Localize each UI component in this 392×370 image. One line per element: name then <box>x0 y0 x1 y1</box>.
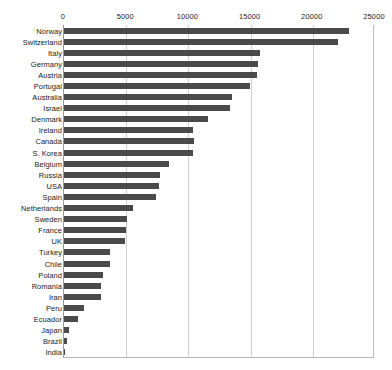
bar-row: Ireland <box>0 125 392 136</box>
bar-row: Spain <box>0 191 392 202</box>
category-label: Canada <box>35 137 62 146</box>
bar <box>64 83 250 89</box>
bar <box>64 116 208 122</box>
bar <box>64 349 65 355</box>
bar <box>64 338 67 344</box>
bar-row: India <box>0 347 392 358</box>
x-tick-label-25000: 25000 <box>363 12 384 21</box>
category-label: France <box>38 226 62 235</box>
bar <box>64 294 101 300</box>
bar <box>64 61 258 67</box>
category-label: Ecuador <box>34 314 62 323</box>
bar <box>64 172 160 178</box>
bar-row: Norway <box>0 25 392 36</box>
category-label: Germany <box>31 59 62 68</box>
bar <box>64 249 110 255</box>
bar-row: Peru <box>0 302 392 313</box>
bar <box>64 138 194 144</box>
bar <box>64 161 169 167</box>
bar <box>64 150 193 156</box>
bar <box>64 227 126 233</box>
category-label: USA <box>46 181 62 190</box>
bar <box>64 205 133 211</box>
category-label: Norway <box>36 26 62 35</box>
category-label: Turkey <box>39 248 62 257</box>
category-label: UK <box>51 237 62 246</box>
bar-row: Austria <box>0 69 392 80</box>
bar <box>64 105 230 111</box>
category-label: Russia <box>39 170 62 179</box>
bar-row: Russia <box>0 169 392 180</box>
category-label: India <box>45 348 62 357</box>
bar-row: Chile <box>0 258 392 269</box>
bar-row: Sweden <box>0 214 392 225</box>
bar-row: Australia <box>0 92 392 103</box>
bar-row: UK <box>0 236 392 247</box>
category-label: S. Korea <box>32 148 62 157</box>
category-label: Austria <box>38 70 62 79</box>
horizontal-bar-chart: 0500010000150002000025000 NorwaySwitzerl… <box>0 0 392 370</box>
bar-row: Netherlands <box>0 203 392 214</box>
category-label: Ireland <box>39 126 62 135</box>
bar <box>64 39 338 45</box>
category-label: Australia <box>32 93 62 102</box>
bar-rows: NorwaySwitzerlandItalyGermanyAustriaPort… <box>0 25 392 358</box>
bar-row: Brazil <box>0 336 392 347</box>
bar <box>64 194 156 200</box>
category-label: Portugal <box>34 82 62 91</box>
bar-row: Canada <box>0 136 392 147</box>
bar-row: Romania <box>0 280 392 291</box>
category-label: Denmark <box>31 115 62 124</box>
category-label: Chile <box>45 259 62 268</box>
bar <box>64 261 110 267</box>
bar <box>64 72 257 78</box>
bar-row: Iran <box>0 291 392 302</box>
bar-row: Belgium <box>0 158 392 169</box>
category-label: Iran <box>49 292 62 301</box>
bar <box>64 183 159 189</box>
category-label: Sweden <box>35 215 62 224</box>
category-label: Japan <box>41 326 62 335</box>
bar <box>64 305 84 311</box>
bar-row: Italy <box>0 47 392 58</box>
bar <box>64 216 127 222</box>
bar-row: Portugal <box>0 80 392 91</box>
category-label: Israel <box>43 104 62 113</box>
category-label: Spain <box>43 192 62 201</box>
bar-row: Turkey <box>0 247 392 258</box>
bar-row: Poland <box>0 269 392 280</box>
bar <box>64 28 349 34</box>
bar-row: France <box>0 225 392 236</box>
bar <box>64 127 193 133</box>
category-label: Netherlands <box>21 204 62 213</box>
x-tick-label-5000: 5000 <box>117 12 134 21</box>
category-label: Brazil <box>43 337 62 346</box>
category-label: Poland <box>38 270 62 279</box>
bar-row: USA <box>0 180 392 191</box>
x-tick-label-0: 0 <box>61 12 65 21</box>
bar <box>64 283 101 289</box>
bar <box>64 238 125 244</box>
x-tick-label-20000: 20000 <box>301 12 322 21</box>
bar-row: Denmark <box>0 114 392 125</box>
category-label: Peru <box>46 303 62 312</box>
category-label: Switzerland <box>23 37 62 46</box>
bar-row: Ecuador <box>0 313 392 324</box>
bar-row: Israel <box>0 103 392 114</box>
category-label: Italy <box>48 48 62 57</box>
bar <box>64 272 103 278</box>
bar <box>64 327 69 333</box>
x-tick-label-15000: 15000 <box>239 12 260 21</box>
category-label: Belgium <box>35 159 62 168</box>
bar-row: Germany <box>0 58 392 69</box>
category-label: Romania <box>32 281 62 290</box>
x-tick-label-10000: 10000 <box>177 12 198 21</box>
bar-row: Japan <box>0 325 392 336</box>
bar <box>64 94 232 100</box>
bar-row: S. Korea <box>0 147 392 158</box>
bar <box>64 316 78 322</box>
bar-row: Switzerland <box>0 36 392 47</box>
bar <box>64 50 260 56</box>
